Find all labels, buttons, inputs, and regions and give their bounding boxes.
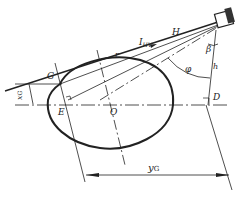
- sensor-icon: [214, 7, 234, 28]
- ray-g: [60, 25, 218, 84]
- label-yg: yG: [147, 162, 160, 173]
- xg-dimension: [29, 84, 33, 104]
- line-d-down: [206, 105, 232, 190]
- label-g: G: [47, 71, 54, 81]
- label-xg: xG: [15, 90, 24, 100]
- geometry-diagram: G E O D r H IHV β φ h yG xG: [0, 0, 247, 205]
- label-e: E: [57, 107, 65, 117]
- ray-h: [5, 22, 218, 91]
- label-i: IHV: [138, 37, 153, 48]
- label-d: D: [212, 92, 220, 102]
- yg-arrow-left: [86, 173, 99, 177]
- label-h: h: [213, 62, 218, 71]
- label-beta: β: [205, 44, 211, 54]
- label-phi: φ: [185, 64, 192, 74]
- label-h-upper: H: [171, 27, 180, 37]
- line-through-g: [55, 63, 85, 182]
- ray-o: [100, 27, 218, 100]
- label-o: O: [110, 107, 118, 117]
